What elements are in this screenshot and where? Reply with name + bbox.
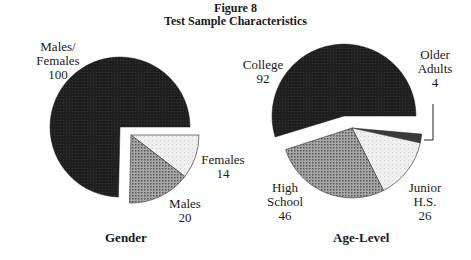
label-line: Females bbox=[198, 153, 248, 167]
label-line: School bbox=[260, 195, 310, 209]
age-pie bbox=[272, 44, 433, 198]
label-males-females: Males/ Females 100 bbox=[28, 40, 88, 82]
label-line: H.S. bbox=[400, 195, 450, 209]
label-junior-hs: Junior H.S. 26 bbox=[400, 181, 450, 223]
label-line: Junior bbox=[400, 181, 450, 195]
label-line: Males bbox=[165, 197, 205, 211]
label-line: High bbox=[260, 181, 310, 195]
label-value: 20 bbox=[165, 211, 205, 225]
age-level-chart-title: Age-Level bbox=[333, 230, 389, 246]
label-value: 92 bbox=[238, 72, 288, 86]
label-males: Males 20 bbox=[165, 197, 205, 225]
label-value: 4 bbox=[410, 76, 460, 90]
label-college: College 92 bbox=[238, 58, 288, 86]
label-value: 14 bbox=[198, 167, 248, 181]
label-older-adults: Older Adults 4 bbox=[410, 48, 460, 90]
label-line: Older bbox=[410, 48, 460, 62]
label-high-school: High School 46 bbox=[260, 181, 310, 223]
slice-college bbox=[272, 44, 416, 137]
older-adults-leader-line bbox=[424, 104, 433, 140]
label-line: Males/ bbox=[28, 40, 88, 54]
gender-chart-title: Gender bbox=[105, 230, 147, 246]
label-line: College bbox=[238, 58, 288, 72]
label-females: Females 14 bbox=[198, 153, 248, 181]
label-value: 100 bbox=[28, 68, 88, 82]
label-line: Adults bbox=[410, 62, 460, 76]
label-line: Females bbox=[28, 54, 88, 68]
label-value: 46 bbox=[260, 209, 310, 223]
label-value: 26 bbox=[400, 209, 450, 223]
